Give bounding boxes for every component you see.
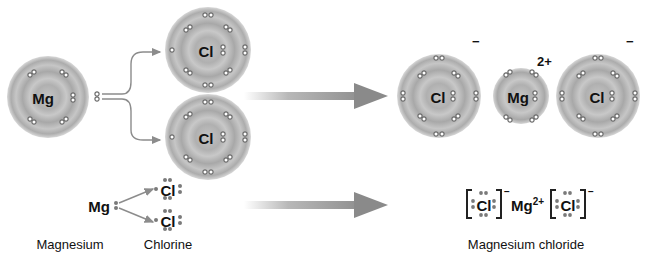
chloride-ion-left-symbol: Cl: [431, 89, 446, 106]
mg-atom-symbol: Mg: [32, 90, 54, 107]
label-chlorine: Chlorine: [144, 237, 192, 252]
diagram-graphics: [0, 0, 662, 258]
lewis-cl-bottom: Cl: [161, 213, 176, 230]
lewis-product-cl-left-charge: −: [504, 186, 510, 197]
reaction-arrow-bottom: [244, 192, 388, 218]
lewis-product-mg-charge: 2+: [533, 196, 544, 207]
lewis-product-cl-left: Cl: [477, 197, 492, 214]
lewis-product-mg: Mg2+: [511, 196, 544, 214]
lewis-product-cl-right-charge: −: [588, 186, 594, 197]
lewis-mg: Mg: [88, 198, 110, 215]
chloride-ion-left-charge: −: [472, 34, 480, 49]
lewis-product-cl-right: Cl: [561, 197, 576, 214]
chloride-ion-right-charge: −: [626, 34, 634, 49]
cl-atom-bottom-symbol: Cl: [199, 130, 214, 147]
magnesium-ion-symbol: Mg: [507, 89, 529, 106]
cl-atom-top-symbol: Cl: [199, 43, 214, 60]
label-magnesium: Magnesium: [36, 237, 103, 252]
label-magnesium-chloride: Magnesium chloride: [468, 237, 584, 252]
chloride-ion-right-symbol: Cl: [590, 89, 605, 106]
magnesium-ion-charge: 2+: [537, 54, 552, 69]
reaction-arrow-top: [244, 83, 388, 109]
lewis-cl-top: Cl: [161, 182, 176, 199]
lewis-product-mg-symbol: Mg: [511, 197, 533, 214]
